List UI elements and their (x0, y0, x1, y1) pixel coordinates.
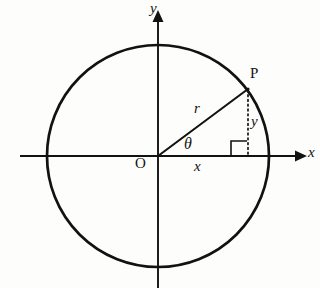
point-p-marker (246, 87, 249, 90)
y-leg-label: y (251, 114, 258, 129)
x-leg-label: x (194, 159, 201, 174)
trigonometry-figure: y x P r θ O x y (0, 0, 320, 288)
y-axis-label: y (150, 1, 157, 16)
y-axis (153, 10, 164, 288)
x-axis-arrowhead (295, 151, 307, 162)
right-angle-marker (231, 141, 247, 156)
point-p-label: P (250, 66, 258, 81)
theta-angle-label: θ (184, 136, 192, 152)
radius-segment (158, 89, 248, 156)
radius-label: r (194, 101, 200, 116)
x-axis-label: x (308, 145, 315, 160)
figure-canvas (0, 0, 320, 288)
origin-label: O (135, 156, 146, 171)
